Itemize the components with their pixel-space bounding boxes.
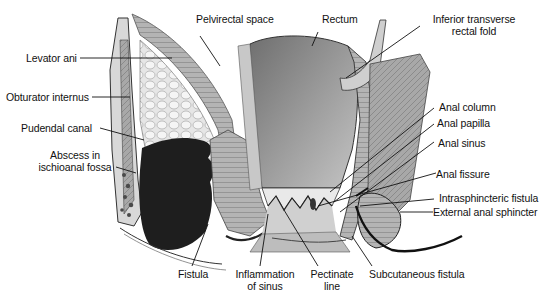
label-anal-fissure: Anal fissure (436, 168, 490, 180)
label-external-anal-sphincter: External anal sphincter (433, 206, 538, 218)
label-line-2: ischioanal fossa (34, 161, 116, 173)
rectum (250, 36, 358, 188)
label-pudendal-canal: Pudendal canal (21, 122, 92, 134)
anatomy-diagram: Pelvirectal space Rectum Inferior transv… (0, 0, 541, 300)
abscess (139, 138, 213, 250)
anal-fissure (310, 198, 316, 210)
label-inferior-transverse-rectal-fold: Inferior transverse rectal fold (414, 13, 534, 37)
label-fistula: Fistula (178, 268, 208, 280)
label-anal-papilla: Anal papilla (437, 117, 490, 129)
label-intrasphincteric-fistula: Intrasphincteric fistula (439, 192, 538, 204)
label-line-1: Inferior transverse (414, 13, 534, 25)
label-obturator-internus: Obturator internus (6, 91, 89, 103)
label-rectum: Rectum (322, 13, 358, 25)
label-subcutaneous-fistula: Subcutaneous fistula (369, 268, 464, 280)
label-abscess-ischioanal-fossa: Abscess in ischioanal fossa (34, 149, 116, 173)
label-pelvirectal-space: Pelvirectal space (196, 13, 274, 25)
label-line-1: Abscess in (34, 149, 116, 161)
label-line-2: rectal fold (414, 25, 534, 37)
label-line-1: Inflammation (228, 268, 302, 280)
label-inflammation-of-sinus: Inflammation of sinus (228, 268, 302, 292)
label-levator-ani: Levator ani (26, 52, 77, 64)
label-pectinate-line: Pectinate line (304, 268, 360, 292)
label-line-2: of sinus (228, 280, 302, 292)
label-anal-sinus: Anal sinus (438, 137, 485, 149)
label-line-1: Pectinate (304, 268, 360, 280)
label-anal-column: Anal column (439, 101, 496, 113)
label-line-2: line (304, 280, 360, 292)
